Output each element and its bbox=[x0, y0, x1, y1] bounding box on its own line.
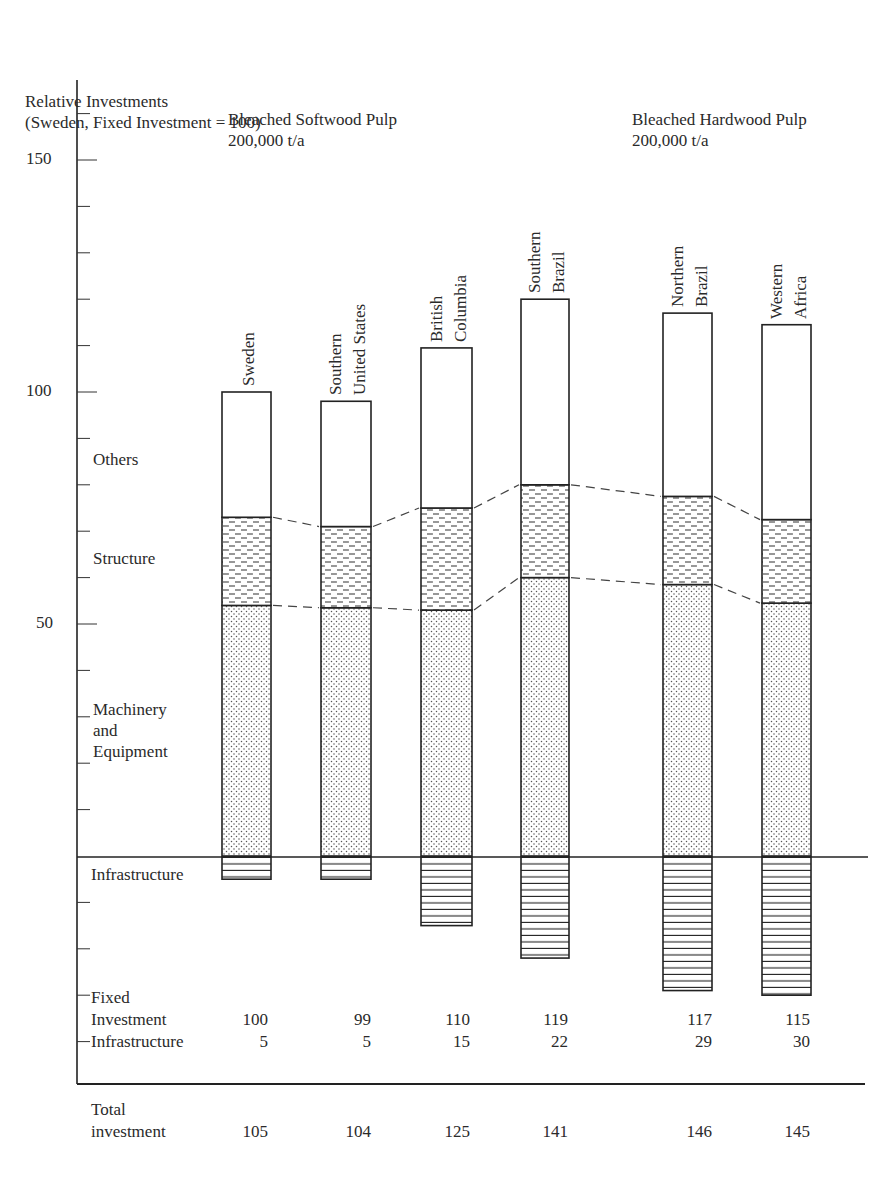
segment-others bbox=[421, 348, 472, 508]
category-label: British bbox=[427, 296, 447, 342]
segment-structure bbox=[663, 496, 712, 584]
category-label: Western bbox=[767, 263, 787, 318]
category-label: Sweden bbox=[239, 332, 259, 386]
segment-structure bbox=[521, 485, 569, 578]
table-label-total-line2: investment bbox=[91, 1122, 166, 1142]
segment-others bbox=[222, 392, 271, 517]
segment-machinery bbox=[762, 603, 811, 856]
segment-infrastructure bbox=[663, 857, 712, 991]
fixed-investment-value: 100 bbox=[218, 1010, 268, 1030]
legend-others: Others bbox=[93, 450, 138, 470]
group-capacity-softwood: 200,000 t/a bbox=[228, 131, 305, 151]
fixed-investment-value: 119 bbox=[518, 1010, 568, 1030]
fixed-investment-value: 99 bbox=[321, 1010, 371, 1030]
infrastructure-value: 29 bbox=[662, 1032, 712, 1052]
connector-machinery-top bbox=[474, 578, 519, 610]
infrastructure-value: 5 bbox=[218, 1032, 268, 1052]
stacked-bar-chart bbox=[0, 0, 891, 1182]
connector-structure-top bbox=[373, 508, 419, 527]
bar-southern-united-states bbox=[321, 401, 371, 879]
segment-infrastructure bbox=[521, 857, 569, 958]
bar-northern-brazil bbox=[663, 313, 712, 990]
segment-machinery bbox=[222, 605, 271, 856]
infrastructure-value: 30 bbox=[760, 1032, 810, 1052]
legend-machinery-line2: and bbox=[93, 721, 118, 741]
segment-machinery bbox=[663, 585, 712, 856]
group-capacity-hardwood: 200,000 t/a bbox=[632, 131, 709, 151]
segment-machinery bbox=[521, 578, 569, 856]
connector-structure-top bbox=[474, 485, 519, 508]
segment-infrastructure bbox=[762, 857, 811, 995]
segment-infrastructure bbox=[421, 857, 472, 926]
fixed-investment-value: 115 bbox=[760, 1010, 810, 1030]
total-investment-value: 105 bbox=[218, 1122, 268, 1142]
group-label-softwood: Bleached Softwood Pulp bbox=[228, 110, 397, 130]
category-label: Northern bbox=[668, 246, 688, 307]
y-tick-label-50: 50 bbox=[36, 613, 53, 633]
connector-structure-top bbox=[571, 485, 661, 497]
category-label: Africa bbox=[791, 275, 811, 318]
table-label-total-line1: Total bbox=[91, 1100, 126, 1120]
legend-machinery-line3: Equipment bbox=[93, 742, 168, 762]
legend-machinery-line1: Machinery bbox=[93, 700, 167, 720]
segment-structure bbox=[421, 508, 472, 610]
connector-structure-top bbox=[273, 517, 319, 526]
category-label: United States bbox=[350, 304, 370, 395]
connector-structure-top bbox=[714, 496, 760, 519]
connector-machinery-top bbox=[273, 605, 319, 607]
table-label-fixed-line1: Fixed bbox=[91, 988, 130, 1008]
connector-machinery-top bbox=[373, 608, 419, 610]
segment-infrastructure bbox=[222, 857, 271, 879]
bar-southern-brazil bbox=[521, 299, 569, 958]
category-label: Columbia bbox=[451, 275, 471, 342]
segment-others bbox=[663, 313, 712, 496]
infrastructure-value: 5 bbox=[321, 1032, 371, 1052]
y-axis-title-line1: Relative Investments bbox=[25, 92, 168, 112]
segment-structure bbox=[321, 527, 371, 608]
bar-western-africa bbox=[762, 325, 811, 995]
bar-sweden bbox=[222, 392, 271, 879]
segment-infrastructure bbox=[321, 857, 371, 879]
legend-infrastructure: Infrastructure bbox=[91, 865, 184, 885]
connector-machinery-top bbox=[714, 585, 760, 604]
category-label: Brazil bbox=[692, 266, 712, 308]
total-investment-value: 104 bbox=[321, 1122, 371, 1142]
total-investment-value: 146 bbox=[662, 1122, 712, 1142]
infrastructure-value: 22 bbox=[518, 1032, 568, 1052]
category-label: Brazil bbox=[549, 252, 569, 294]
bar-british-columbia bbox=[421, 348, 472, 926]
segment-machinery bbox=[421, 610, 472, 856]
segment-others bbox=[762, 325, 811, 520]
table-label-fixed-line2: Investment bbox=[91, 1010, 167, 1030]
segment-others bbox=[321, 401, 371, 526]
category-label: Southern bbox=[326, 334, 346, 395]
total-investment-value: 141 bbox=[518, 1122, 568, 1142]
group-label-hardwood: Bleached Hardwood Pulp bbox=[632, 110, 807, 130]
segment-structure bbox=[762, 520, 811, 604]
bars-group bbox=[222, 299, 811, 995]
connector-machinery-top bbox=[571, 578, 661, 585]
total-investment-value: 125 bbox=[420, 1122, 470, 1142]
category-label: Southern bbox=[525, 232, 545, 293]
infrastructure-value: 15 bbox=[420, 1032, 470, 1052]
table-label-infrastructure: Infrastructure bbox=[91, 1032, 184, 1052]
segment-structure bbox=[222, 517, 271, 605]
total-investment-value: 145 bbox=[760, 1122, 810, 1142]
legend-structure: Structure bbox=[93, 549, 155, 569]
segment-others bbox=[521, 299, 569, 485]
y-tick-label-100: 100 bbox=[26, 381, 52, 401]
y-axis-title-line2: (Sweden, Fixed Investment = 100) bbox=[25, 113, 261, 133]
segment-machinery bbox=[321, 608, 371, 856]
y-tick-label-150: 150 bbox=[26, 149, 52, 169]
fixed-investment-value: 110 bbox=[420, 1010, 470, 1030]
fixed-investment-value: 117 bbox=[662, 1010, 712, 1030]
